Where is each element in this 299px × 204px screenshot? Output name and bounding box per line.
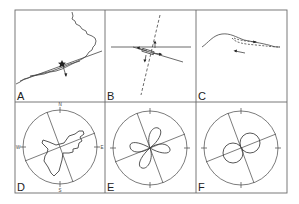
panel-label-d: D: [17, 181, 25, 193]
focal-mechanism-figure: A B C N E S W: [0, 0, 299, 204]
panel-label-f: F: [198, 181, 205, 193]
compass-n: N: [59, 102, 62, 107]
nodal-line-dashed: [141, 15, 160, 95]
four-lobe-pattern: [130, 128, 170, 168]
compass-w: W: [16, 145, 21, 150]
panel-label-a: A: [17, 90, 25, 102]
panel-d: [20, 107, 100, 187]
lobe-right: [240, 133, 260, 153]
panel-c: [202, 34, 280, 53]
compass-e: E: [101, 145, 104, 150]
arrowhead-down-icon: [143, 59, 146, 62]
panel-label-c: C: [198, 90, 206, 102]
lobe-3: [139, 148, 151, 168]
arrowhead-a-icon: [64, 73, 67, 77]
compass-s: S: [59, 188, 62, 193]
outer-frame: [15, 10, 287, 193]
panel-b: [111, 15, 191, 95]
panel-label-b: B: [107, 90, 114, 102]
panel-f: [201, 108, 281, 188]
compass-labels-d: N E S W: [16, 102, 104, 193]
small-arrow-c-icon: [253, 41, 257, 44]
arrowhead-c-icon: [234, 50, 238, 53]
panel-a: [16, 12, 102, 84]
panel-e: [110, 108, 190, 188]
nodal-plane-d2: [25, 133, 95, 161]
coastline: [16, 12, 96, 84]
rose-polygon: [42, 131, 84, 176]
panel-label-e: E: [107, 181, 114, 193]
panel-grid: [15, 10, 287, 193]
